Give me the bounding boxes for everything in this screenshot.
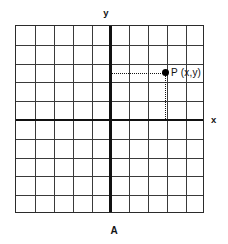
dotted-guide-horizontal: [111, 73, 165, 74]
point-label-p: P (x,y): [171, 67, 201, 78]
x-axis-line: [16, 119, 203, 121]
dotted-guide-vertical: [165, 74, 166, 119]
x-axis-label: x: [211, 115, 216, 125]
point-marker-p[interactable]: [162, 69, 169, 76]
grid-plot-area: P (x,y): [15, 25, 204, 213]
figure-caption: A: [110, 226, 117, 236]
y-axis-label: y: [103, 8, 108, 18]
coordinate-plane-figure: y x P (x,y) A: [0, 0, 228, 244]
